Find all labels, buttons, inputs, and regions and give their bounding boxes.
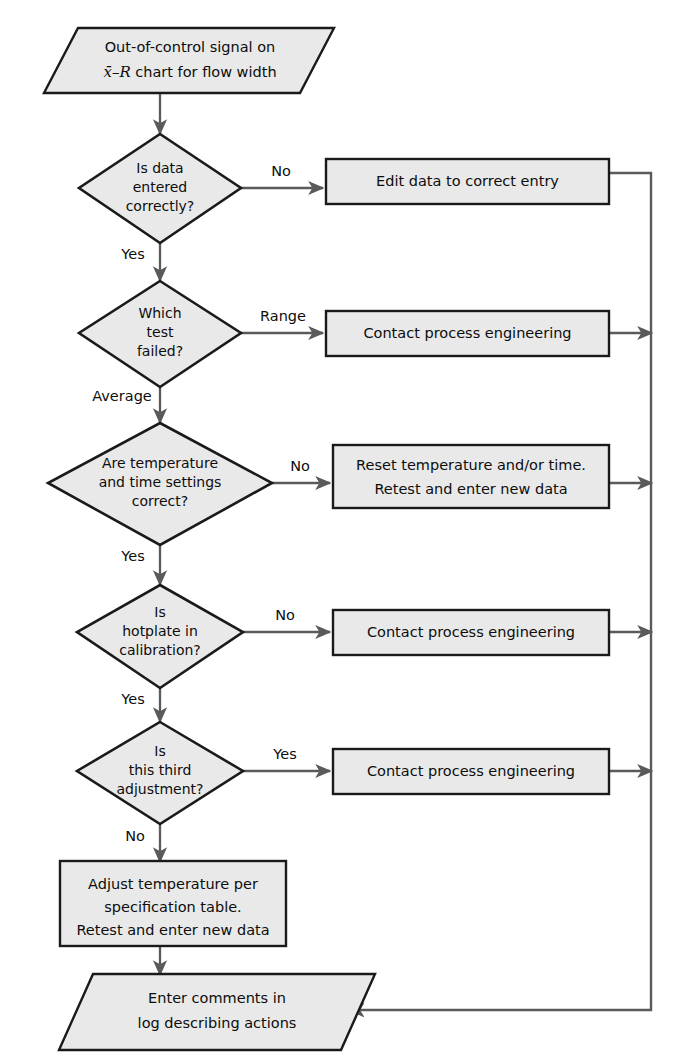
edge-label-decision5-no: No	[125, 828, 145, 844]
edge-label-decision4-no: No	[275, 607, 295, 623]
start-label-line1: Out-of-control signal on	[105, 39, 276, 55]
decision3-label-line2: and time settings	[99, 474, 222, 490]
decision4-label-line2: hotplate in	[122, 623, 198, 639]
process3-label-line1: Reset temperature and/or time.	[356, 457, 586, 473]
end-label-line2: log describing actions	[138, 1015, 297, 1031]
node-process2[interactable]: Contact process engineering	[326, 311, 609, 356]
decision5-label-line1: Is	[154, 743, 165, 759]
node-process1[interactable]: Edit data to correct entry	[326, 159, 609, 204]
process6-label-line3: Retest and enter new data	[76, 922, 269, 938]
decision2-label-line2: test	[147, 324, 174, 340]
decision1-label-line1: Is data	[136, 160, 183, 176]
decision4-label-line1: Is	[154, 604, 165, 620]
process4-label-line1: Contact process engineering	[367, 624, 575, 640]
edge-label-decision1-no: No	[271, 163, 291, 179]
end-parallelogram-shape	[59, 974, 375, 1050]
decision5-label-line3: adjustment?	[116, 781, 203, 797]
start-parallelogram-shape	[44, 28, 334, 93]
end-label-line1: Enter comments in	[148, 990, 286, 1006]
start-label-line2-suffix: chart for flow width	[131, 64, 277, 80]
edge-label-decision4-yes: Yes	[120, 691, 144, 707]
process5-label-line1: Contact process engineering	[367, 763, 575, 779]
decision3-label-line1: Are temperature	[102, 455, 218, 471]
process6-label-line1: Adjust temperature per	[88, 876, 258, 892]
node-process4[interactable]: Contact process engineering	[333, 610, 609, 655]
edge-label-decision1-yes: Yes	[120, 246, 144, 262]
process3-label-line2: Retest and enter new data	[374, 481, 567, 497]
edge-label-decision2-range: Range	[260, 308, 306, 324]
decision1-label-line3: correctly?	[126, 198, 195, 214]
flowchart-canvas: Out-of-control signal on x̄–R chart for …	[0, 0, 679, 1064]
process3-rect-shape	[333, 445, 609, 508]
decision5-label-line2: this third	[129, 762, 192, 778]
edge-label-decision3-yes: Yes	[120, 548, 144, 564]
node-decision4[interactable]: Is hotplate in calibration?	[77, 585, 243, 688]
decision1-label-line2: entered	[133, 179, 188, 195]
node-start[interactable]: Out-of-control signal on x̄–R chart for …	[44, 28, 334, 93]
connector-right-bus	[349, 173, 651, 1010]
dash-r-symbol: –R	[112, 63, 131, 81]
start-label-line2: x̄–R chart for flow width	[103, 63, 276, 81]
process1-label-line1: Edit data to correct entry	[376, 173, 559, 189]
decision4-label-line3: calibration?	[119, 642, 201, 658]
node-process3[interactable]: Reset temperature and/or time. Retest an…	[333, 445, 609, 508]
flowchart-svg: Out-of-control signal on x̄–R chart for …	[0, 0, 679, 1064]
edge-label-decision3-no: No	[290, 458, 310, 474]
node-end[interactable]: Enter comments in log describing actions	[59, 974, 375, 1050]
decision3-label-line3: correct?	[132, 493, 188, 509]
process6-label-line2: specification table.	[104, 899, 241, 915]
node-decision1[interactable]: Is data entered correctly?	[79, 134, 241, 243]
node-decision3[interactable]: Are temperature and time settings correc…	[48, 423, 272, 545]
edge-label-decision2-average: Average	[92, 388, 152, 404]
node-process6[interactable]: Adjust temperature per specification tab…	[60, 861, 286, 946]
process2-label-line1: Contact process engineering	[363, 325, 571, 341]
node-process5[interactable]: Contact process engineering	[333, 749, 609, 794]
node-decision2[interactable]: Which test failed?	[79, 281, 241, 387]
node-decision5[interactable]: Is this third adjustment?	[77, 722, 243, 824]
edge-label-decision5-yes: Yes	[272, 746, 296, 762]
decision2-label-line1: Which	[138, 305, 181, 321]
decision2-label-line3: failed?	[137, 343, 183, 359]
